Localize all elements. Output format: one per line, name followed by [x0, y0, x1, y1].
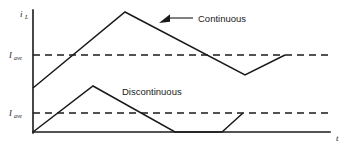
lower-average-label-subscript: ave: [14, 113, 22, 119]
y-axis-label: i L: [20, 9, 29, 20]
upper-average-label-subscript: ave: [14, 55, 22, 61]
continuous-annotation-group: Continuous: [159, 13, 246, 24]
waveform-figure: i L t I ave I ave Continuous Discontinuo…: [0, 0, 350, 150]
y-axis-label-main: i: [20, 9, 23, 19]
upper-average-level-group: I ave: [8, 50, 330, 61]
continuous-arrow-icon: [159, 14, 170, 23]
continuous-waveform: [33, 12, 285, 88]
upper-average-label-main: I: [8, 50, 13, 60]
y-axis-label-subscript: L: [24, 14, 29, 20]
discontinuous-label: Discontinuous: [122, 86, 182, 97]
figure-container: i L t I ave I ave Continuous Discontinuo…: [0, 0, 350, 150]
discontinuous-annotation-group: Discontinuous: [122, 86, 182, 97]
lower-average-label-main: I: [8, 108, 13, 118]
x-axis-label: t: [336, 133, 339, 143]
continuous-label: Continuous: [198, 13, 246, 24]
axes-group: [33, 10, 330, 133]
